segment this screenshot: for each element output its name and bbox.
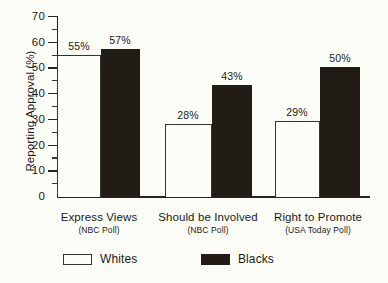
bar-value-whites-should-be-involved: 28%	[160, 109, 216, 121]
x-category-main-express-views: Express Views	[38, 211, 160, 223]
bar-whites-should-be-involved	[165, 124, 212, 197]
x-category-sub-right-to-promote: (USA Today Poll)	[256, 225, 380, 235]
x-category-sub-should-be-involved: (NBC Poll)	[147, 225, 269, 235]
plot-area: Reporting Approval (%) 70 60 50 40 30 20…	[0, 0, 388, 283]
y-tick-20	[48, 145, 57, 146]
y-tick-30	[48, 119, 57, 120]
y-tick-label-70: 70	[32, 10, 45, 22]
bar-blacks-right-to-promote	[320, 67, 360, 196]
legend-item-blacks: Blacks	[201, 252, 274, 266]
bar-value-blacks-should-be-involved: 43%	[204, 70, 260, 82]
y-tick-label-30: 30	[32, 113, 45, 125]
y-tick-70	[48, 16, 57, 17]
chart-legend: Whites Blacks	[57, 252, 370, 274]
x-category-label-express-views: Express Views (NBC Poll)	[38, 211, 160, 235]
bar-blacks-should-be-involved	[212, 85, 252, 196]
bar-whites-express-views	[57, 55, 101, 197]
x-category-main-right-to-promote: Right to Promote	[256, 211, 380, 223]
bar-value-blacks-right-to-promote: 50%	[312, 52, 368, 64]
y-tick-label-50: 50	[32, 61, 45, 73]
legend-swatch-blacks-icon	[201, 254, 230, 265]
x-category-label-right-to-promote: Right to Promote (USA Today Poll)	[256, 211, 380, 235]
bar-value-blacks-express-views: 57%	[92, 34, 148, 46]
bar-whites-right-to-promote	[275, 121, 320, 196]
x-category-main-should-be-involved: Should be Involved	[147, 211, 269, 223]
y-tick-label-10: 10	[32, 164, 45, 176]
legend-swatch-whites-icon	[63, 254, 92, 265]
bar-blacks-express-views	[101, 49, 140, 196]
legend-item-whites: Whites	[63, 252, 137, 266]
bar-chart: Reporting Approval (%) 70 60 50 40 30 20…	[0, 0, 388, 283]
y-tick-10	[48, 170, 57, 171]
y-tick-40	[48, 93, 57, 94]
legend-label-blacks: Blacks	[238, 252, 274, 266]
x-category-label-should-be-involved: Should be Involved (NBC Poll)	[147, 211, 269, 235]
y-tick-label-60: 60	[32, 36, 45, 48]
x-category-sub-express-views: (NBC Poll)	[38, 225, 160, 235]
y-tick-label-40: 40	[32, 87, 45, 99]
bar-value-whites-right-to-promote: 29%	[269, 106, 325, 118]
y-tick-label-20: 20	[32, 139, 45, 151]
y-tick-50	[48, 67, 57, 68]
legend-label-whites: Whites	[100, 252, 137, 266]
y-tick-label-0: 0	[38, 190, 45, 202]
